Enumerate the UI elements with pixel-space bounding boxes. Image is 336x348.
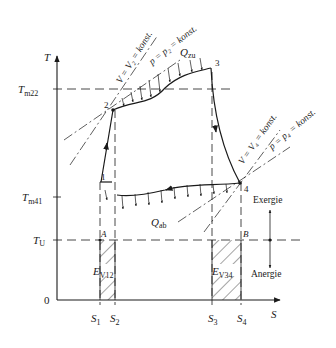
- process-4-1: [117, 183, 240, 195]
- heat-output: [105, 184, 227, 209]
- point-4-label: 4: [244, 184, 249, 194]
- point-2-label: 2: [104, 100, 109, 110]
- anergie-label: Anergie: [251, 269, 281, 279]
- exergie-label: Exergie: [253, 195, 282, 205]
- qab-label: Qab: [151, 216, 167, 230]
- qzu-label: Qzu: [180, 46, 196, 60]
- exergy-loss-areas: [100, 240, 241, 300]
- s2-label: S2: [110, 312, 120, 327]
- y-tick-labels: Tm22 Tm41 TU: [18, 83, 45, 248]
- tu-label: TU: [33, 234, 45, 248]
- isobar-2-label: p = p₂ = konst.: [146, 23, 198, 67]
- origin-label: 0: [44, 294, 50, 306]
- isobar-4-line: [178, 147, 290, 222]
- s3-label: S3: [208, 312, 218, 327]
- exergy-loss-12-area: [100, 240, 115, 264]
- x-axis-label: S: [271, 308, 277, 320]
- point-1-label: 1: [101, 172, 106, 182]
- exergy-loss-34-area: [212, 240, 241, 264]
- isochore-2-line: [70, 35, 158, 165]
- ts-diagram: T S 0 Tm22 Tm41 TU EV12 EV34 V = V₂ = ko: [0, 0, 336, 348]
- y-reference-lines: [53, 89, 300, 240]
- s4-label: S4: [237, 312, 247, 327]
- cycle: [100, 68, 240, 195]
- y-axis-label: T: [44, 51, 51, 63]
- ev12-label: EV12: [92, 265, 114, 280]
- isobar-4-label: p = p₄ = konst.: [266, 107, 317, 152]
- x-tick-labels: S1 S2 S3 S4: [91, 312, 247, 327]
- point-b-label: B: [243, 229, 249, 239]
- state-points: 1 2 3 4 A B: [99, 58, 250, 242]
- exergy-anergy-indicator: Exergie Anergie: [251, 195, 282, 279]
- point-3-label: 3: [215, 58, 220, 68]
- tm22-label: Tm22: [18, 83, 38, 98]
- s1-label: S1: [91, 312, 101, 327]
- tm41-label: Tm41: [22, 191, 42, 206]
- point-a-label: A: [100, 229, 107, 239]
